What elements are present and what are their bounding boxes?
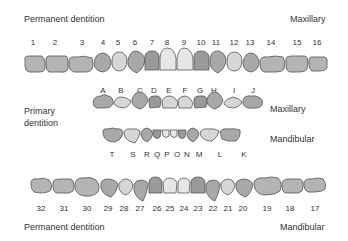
primary-mandibular-teeth xyxy=(103,128,240,143)
primary-maxillary-teeth xyxy=(93,92,263,109)
dentition-diagram xyxy=(0,0,348,241)
permanent-maxillary-teeth xyxy=(25,48,327,73)
permanent-mandibular-teeth xyxy=(31,177,326,201)
